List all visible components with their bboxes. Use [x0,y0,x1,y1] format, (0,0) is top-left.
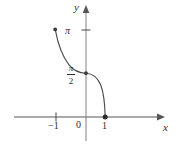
y-tick-label-pi-over-two: π 2 [64,64,78,86]
x-axis-label: x [163,122,168,133]
y-axis-label: y [74,2,79,13]
x-tick-label-one: 1 [102,121,107,131]
y-axis-arrow-icon [83,5,90,13]
y-tick-label-pi: π [65,26,70,36]
fraction-denominator: 2 [64,75,78,86]
curve-endpoint-left-dot [53,28,57,32]
arccos-graph-figure: y x π π 2 −1 0 1 [0,0,180,145]
x-axis-arrow-icon [157,114,165,121]
plot-canvas [0,0,180,145]
x-tick-label-neg-one: −1 [48,121,59,131]
arccos-curve [55,29,105,117]
curve-y-axis-crossing-dot [84,71,88,75]
fraction-numerator: π [64,64,78,74]
curve-endpoint-right-dot [103,115,108,120]
origin-label: 0 [76,120,81,130]
